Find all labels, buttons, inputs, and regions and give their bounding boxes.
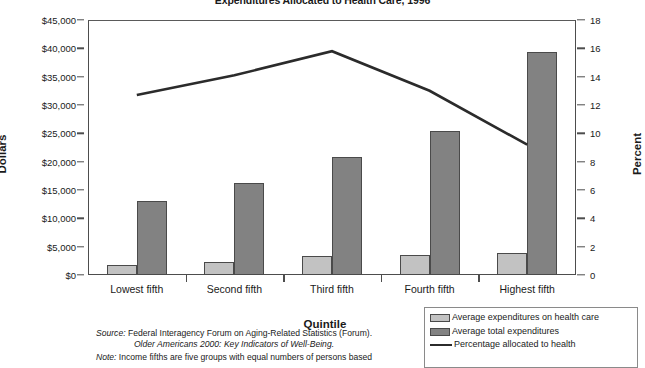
y-tick-mark-right <box>577 274 585 275</box>
legend-label-0: Average expenditures on health care <box>452 312 599 323</box>
bar-dark-4 <box>527 52 557 275</box>
y-tick-mark-left <box>77 104 84 105</box>
y-tick-mark-right <box>577 48 585 49</box>
y-tick-mark-right <box>577 133 585 134</box>
y-tick-label-right: 14 <box>590 71 601 82</box>
y-tick-label-right: 8 <box>590 156 595 167</box>
bar-dark-2 <box>332 157 362 275</box>
chart-container: Expenditures Allocated to Health Care, 1… <box>0 0 645 368</box>
y-tick-mark-left <box>77 189 84 190</box>
y-tick-label-left: $40,000 <box>42 43 76 54</box>
y-tick-label-right: 12 <box>590 100 601 111</box>
y-tick-label-left: $10,000 <box>42 213 76 224</box>
legend-swatch-light-icon <box>430 314 450 322</box>
y-tick-mark-right <box>577 104 585 105</box>
y-tick-label-right: 16 <box>590 43 601 54</box>
legend-label-1: Average total expenditures <box>452 326 559 337</box>
source-text: Federal Interagency Forum on Aging-Relat… <box>126 328 372 338</box>
x-tick-mark <box>381 275 382 282</box>
y-tick-label-left: $30,000 <box>42 100 76 111</box>
y-tick-label-left: $0 <box>65 270 76 281</box>
y-tick-mark-left <box>77 133 84 134</box>
x-axis-label-3: Fourth fifth <box>404 283 454 295</box>
bar-dark-0 <box>137 201 167 275</box>
y-tick-label-right: 2 <box>590 241 595 252</box>
legend-swatch-line-icon <box>430 344 452 346</box>
bar-light-4 <box>497 253 527 275</box>
bar-light-0 <box>107 265 137 275</box>
x-axis-label-4: Highest fifth <box>499 283 554 295</box>
x-tick-mark <box>283 275 284 282</box>
bar-dark-3 <box>430 131 460 276</box>
note-text: Note: Income fifths are five groups with… <box>38 352 430 363</box>
y-tick-mark-left <box>77 274 84 275</box>
x-axis-label-1: Second fifth <box>207 283 262 295</box>
source-italic-line: Older Americans 2000: Key Indicators of … <box>134 339 334 349</box>
bar-light-2 <box>302 256 332 275</box>
y-tick-label-right: 4 <box>590 213 595 224</box>
source-label: Source: <box>96 328 126 338</box>
y-tick-label-right: 10 <box>590 128 601 139</box>
y-tick-label-right: 6 <box>590 185 595 196</box>
note-body: Income fifths are five groups with equal… <box>116 352 372 362</box>
y-tick-label-left: $15,000 <box>42 185 76 196</box>
y-tick-label-right: 0 <box>590 270 595 281</box>
y-tick-mark-right <box>577 246 585 247</box>
x-tick-mark <box>186 275 187 282</box>
y-tick-mark-right <box>577 76 585 77</box>
legend-item-2: Percentage allocated to health <box>430 339 633 350</box>
y-tick-mark-right <box>577 218 585 219</box>
chart-title: Expenditures Allocated to Health Care, 1… <box>0 0 645 6</box>
y-tick-mark-right <box>577 161 585 162</box>
y-tick-mark-left <box>77 76 84 77</box>
y-tick-mark-left <box>77 161 84 162</box>
legend-label-2: Percentage allocated to health <box>454 339 576 350</box>
x-axis-label-2: Third fifth <box>310 283 354 295</box>
y-tick-label-right: 18 <box>590 15 601 26</box>
x-tick-mark <box>478 275 479 282</box>
source-note: Source: Federal Interagency Forum on Agi… <box>38 328 430 350</box>
y-tick-mark-right <box>577 189 585 190</box>
bar-light-3 <box>400 255 430 275</box>
note-label: Note: <box>96 352 117 362</box>
bar-light-1 <box>204 262 234 275</box>
y-tick-mark-left <box>77 246 84 247</box>
chart-legend: Average expenditures on health careAvera… <box>424 307 638 368</box>
y-axis-title-right: Percent <box>631 133 643 175</box>
y-axis-right: 024681012141618 <box>578 20 618 275</box>
x-axis-label-0: Lowest fifth <box>110 283 163 295</box>
y-axis-left: $0$5,000$10,000$15,000$20,000$25,000$30,… <box>0 20 84 275</box>
y-tick-label-left: $20,000 <box>42 156 76 167</box>
bar-dark-1 <box>234 183 264 275</box>
legend-swatch-dark-icon <box>430 328 450 336</box>
y-tick-label-left: $5,000 <box>47 241 76 252</box>
y-tick-label-left: $45,000 <box>42 15 76 26</box>
legend-item-1: Average total expenditures <box>430 326 633 337</box>
legend-item-0: Average expenditures on health care <box>430 312 633 323</box>
y-tick-mark-right <box>577 19 585 20</box>
y-tick-label-left: $35,000 <box>42 71 76 82</box>
y-tick-label-left: $25,000 <box>42 128 76 139</box>
y-tick-mark-left <box>77 48 84 49</box>
y-tick-mark-left <box>77 19 84 20</box>
y-tick-mark-left <box>77 218 84 219</box>
